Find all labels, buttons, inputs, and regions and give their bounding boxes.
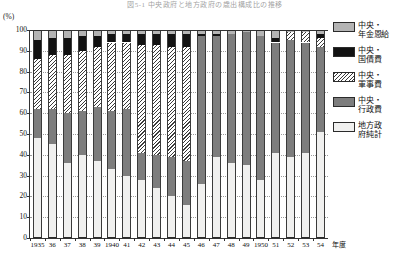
bar-segment-bond: [48, 38, 57, 55]
legend-label-military: 中央・ 軍事費: [358, 71, 381, 89]
y-axis-label: 40: [20, 151, 28, 159]
bar-column[interactable]: [122, 30, 131, 238]
bar-column[interactable]: [242, 30, 251, 238]
legend-item-pension[interactable]: 中央・ 年金恩給: [333, 21, 409, 39]
x-axis-label: 48: [228, 242, 235, 249]
bar-segment-pension: [182, 30, 191, 34]
y-axis-label: 60: [20, 109, 28, 117]
legend-swatch-military: [333, 72, 355, 82]
bar-segment-military: [182, 47, 191, 161]
bar-segment-bond: [137, 34, 146, 44]
bar-segment-local: [63, 163, 72, 238]
bar-column[interactable]: [256, 30, 265, 238]
x-axis-label: 54: [317, 242, 324, 249]
bar-column[interactable]: [197, 30, 206, 238]
legend-item-local[interactable]: 地方政 府純計: [333, 121, 409, 139]
bar-segment-pension: [286, 30, 295, 32]
x-axis-tick: [313, 238, 314, 241]
bar-segment-admin: [93, 107, 102, 161]
legend-item-military[interactable]: 中央・ 軍事費: [333, 71, 409, 89]
x-axis-tick: [90, 238, 91, 241]
bar-segment-bond: [197, 34, 206, 36]
bar-segment-local: [93, 161, 102, 238]
x-axis-label: 1950: [254, 242, 268, 249]
bar-segment-admin: [107, 111, 116, 169]
bar-column[interactable]: [271, 30, 280, 238]
x-axis-tick: [134, 238, 135, 241]
y-axis-label: 20: [20, 193, 28, 201]
x-axis-tick: [268, 238, 269, 241]
bar-segment-local: [271, 153, 280, 238]
bar-column[interactable]: [182, 30, 191, 238]
bar-segment-local: [122, 176, 131, 238]
bar-column[interactable]: [93, 30, 102, 238]
bar-column[interactable]: [227, 30, 236, 238]
x-axis-tick: [179, 238, 180, 241]
bar-segment-local: [182, 205, 191, 238]
x-axis-label: 47: [213, 242, 220, 249]
bar-segment-bond: [167, 34, 176, 46]
x-axis-label: 53: [302, 242, 309, 249]
y-axis-label: 10: [20, 213, 28, 221]
bar-segment-local: [48, 144, 57, 238]
bar-segment-bond: [93, 36, 102, 46]
bar-column[interactable]: [33, 30, 42, 238]
bar-segment-pension: [48, 30, 57, 38]
bar-segment-military: [286, 32, 295, 40]
legend-item-admin[interactable]: 中央・ 行政費: [333, 96, 409, 114]
bar-column[interactable]: [167, 30, 176, 238]
bar-segment-admin: [256, 36, 265, 180]
bar-segment-bond: [182, 34, 191, 46]
bar-segment-admin: [227, 34, 236, 163]
bar-segment-admin: [197, 36, 206, 184]
x-axis-tick: [194, 238, 195, 241]
bar-segment-admin: [301, 43, 310, 153]
bar-column[interactable]: [63, 30, 72, 238]
x-axis-label: 51: [272, 242, 279, 249]
bar-segment-pension: [316, 30, 325, 34]
bar-segment-admin: [286, 40, 295, 156]
y-axis-label: 0: [23, 234, 27, 242]
x-axis-label: 1940: [105, 242, 119, 249]
x-axis-label: 44: [168, 242, 175, 249]
bar-column[interactable]: [78, 30, 87, 238]
bar-segment-pension: [271, 30, 280, 38]
bar-segment-military: [107, 43, 116, 112]
bar-segment-local: [197, 184, 206, 238]
bar-segment-military: [316, 38, 325, 46]
y-axis-label: 70: [20, 89, 28, 97]
bar-segment-pension: [107, 30, 116, 34]
legend-swatch-pension: [333, 22, 355, 32]
bar-segment-bond: [107, 34, 116, 42]
bar-column[interactable]: [316, 30, 325, 238]
bar-segment-local: [227, 163, 236, 238]
chart-title: 図5-1 中央政府と地方政府の歳出構成比の推移: [0, 0, 410, 9]
bar-segment-pension: [256, 30, 265, 36]
bar-segment-pension: [212, 30, 221, 34]
bar-segment-pension: [122, 30, 131, 34]
bar-segment-pension: [227, 30, 236, 34]
bar-column[interactable]: [137, 30, 146, 238]
bar-segment-local: [33, 138, 42, 238]
bar-segment-military: [152, 45, 161, 155]
x-axis-tick: [75, 238, 76, 241]
bar-column[interactable]: [152, 30, 161, 238]
bar-column[interactable]: [286, 30, 295, 238]
bar-segment-bond: [122, 34, 131, 42]
bar-segment-admin: [316, 47, 325, 132]
bar-column[interactable]: [212, 30, 221, 238]
x-axis-label: 38: [79, 242, 86, 249]
legend-item-bond[interactable]: 中央・ 国債費: [333, 46, 409, 64]
bar-column[interactable]: [107, 30, 116, 238]
bar-segment-bond: [152, 34, 161, 44]
bar-segment-local: [152, 188, 161, 238]
bar-segment-pension: [78, 30, 87, 36]
bar-segment-military: [301, 32, 310, 42]
bar-column[interactable]: [301, 30, 310, 238]
y-axis-unit-label: (%): [3, 12, 14, 21]
legend-label-pension: 中央・ 年金恩給: [358, 21, 389, 39]
x-axis-label: 39: [94, 242, 101, 249]
bar-segment-admin: [152, 155, 161, 188]
bar-column[interactable]: [48, 30, 57, 238]
x-axis-label: 41: [123, 242, 130, 249]
